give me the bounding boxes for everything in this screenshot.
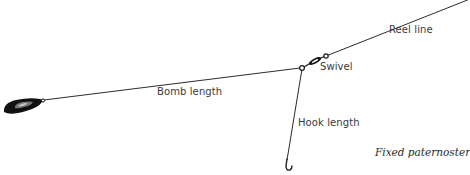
hook-length-line [287, 69, 302, 160]
bomb-length-label: Bomb length [157, 86, 222, 97]
diagram-caption: Fixed paternoster [375, 146, 470, 158]
fish-hook-icon [286, 159, 292, 170]
swivel-label: Swivel [320, 61, 353, 72]
reel-line-label: Reel line [389, 24, 433, 35]
lead-weight-icon [4, 98, 45, 114]
hook-length-label: Hook length [298, 117, 360, 128]
fixed-paternoster-diagram: Reel line Swivel Bomb length Hook length… [0, 0, 470, 175]
